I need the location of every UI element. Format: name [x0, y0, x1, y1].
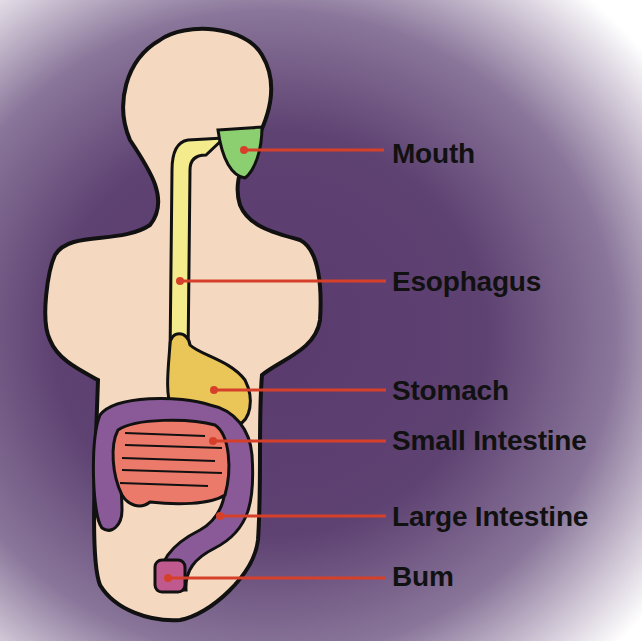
label-large-intestine: Large Intestine	[392, 503, 588, 531]
label-esophagus: Esophagus	[392, 268, 541, 296]
label-bum: Bum	[392, 563, 454, 591]
label-small-intestine: Small Intestine	[392, 427, 587, 455]
label-stomach: Stomach	[392, 377, 509, 405]
digestive-diagram	[0, 0, 642, 641]
label-mouth: Mouth	[392, 140, 475, 168]
